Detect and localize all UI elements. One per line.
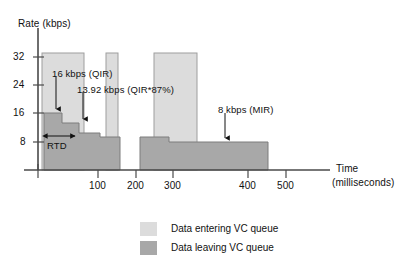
legend-item-entering: Data entering VC queue (140, 219, 278, 238)
y-tick-label-24: 24 (13, 79, 24, 90)
annotation-mir: 8 kbps (MIR) (218, 104, 274, 115)
x-axis-subtitle: (milliseconds) (332, 177, 395, 188)
x-tick-label-200: 200 (127, 180, 144, 191)
leaving-step-right (140, 137, 268, 170)
chart-legend: Data entering VC queue Data leaving VC q… (140, 219, 278, 257)
annotation-qir: 16 kbps (QIR) (52, 68, 112, 79)
legend-swatch-entering (140, 222, 157, 236)
y-axis-title: Rate (kbps) (18, 18, 71, 29)
legend-label-entering: Data entering VC queue (171, 223, 278, 234)
annotation-qir87: 13.92 kbps (QIR*87%) (77, 84, 174, 95)
y-tick-label-32: 32 (13, 51, 24, 62)
y-tick-label-16: 16 (13, 107, 24, 118)
chart-figure: Rate (kbps) 32 24 16 8 100 200 300 400 5… (0, 0, 420, 280)
x-tick-label-100: 100 (89, 180, 106, 191)
x-tick-label-500: 500 (277, 180, 294, 191)
y-tick-label-8: 8 (20, 136, 26, 147)
legend-item-leaving: Data leaving VC queue (140, 238, 278, 257)
legend-label-leaving: Data leaving VC queue (171, 242, 274, 253)
x-tick-label-300: 300 (164, 180, 181, 191)
x-axis-title: Time (336, 163, 358, 174)
annotation-rtd: RTD (47, 140, 67, 151)
x-tick-label-400: 400 (239, 180, 256, 191)
legend-swatch-leaving (140, 241, 157, 255)
